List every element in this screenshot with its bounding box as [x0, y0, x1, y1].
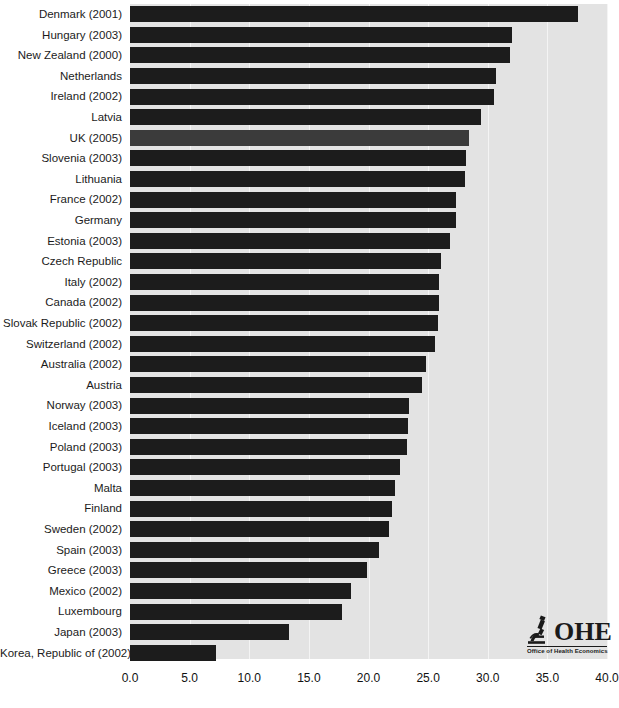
- bar-row: [130, 25, 607, 46]
- x-tick-label: 5.0: [181, 671, 198, 685]
- bar-row: [130, 169, 607, 190]
- x-axis: 0.05.010.015.020.025.030.035.040.0: [0, 659, 618, 693]
- bar: [130, 130, 469, 146]
- bar: [130, 336, 435, 352]
- bar: [130, 274, 439, 290]
- bar-row: [130, 457, 607, 478]
- bar-row: [130, 107, 607, 128]
- category-label: Italy (2002): [0, 272, 126, 293]
- bar-rows: [130, 4, 607, 659]
- category-label: Denmark (2001): [0, 4, 126, 25]
- category-label: UK (2005): [0, 128, 126, 149]
- bar: [130, 459, 400, 475]
- category-label: Netherlands: [0, 66, 126, 87]
- ohe-tagline: Office of Health Economics: [527, 646, 607, 654]
- bar: [130, 418, 408, 434]
- category-label: Estonia (2003): [0, 231, 126, 252]
- bar-row: [130, 86, 607, 107]
- bar-row: [130, 375, 607, 396]
- bar: [130, 480, 395, 496]
- x-tick-label: 15.0: [297, 671, 320, 685]
- bar: [130, 624, 289, 640]
- category-label: Greece (2003): [0, 560, 126, 581]
- bar-row: [130, 231, 607, 252]
- bar-row: [130, 148, 607, 169]
- category-label: Spain (2003): [0, 540, 126, 561]
- category-label: Finland: [0, 498, 126, 519]
- bar-row: [130, 540, 607, 561]
- category-label: Slovak Republic (2002): [0, 313, 126, 334]
- bar-row: [130, 416, 607, 437]
- bar-row: [130, 66, 607, 87]
- category-label: Austria: [0, 375, 126, 396]
- bar: [130, 89, 494, 105]
- bar: [130, 212, 456, 228]
- microscope-icon: [527, 615, 553, 645]
- bar-row: [130, 210, 607, 231]
- bar: [130, 604, 342, 620]
- bar: [130, 562, 367, 578]
- bar: [130, 109, 481, 125]
- bar-row: [130, 437, 607, 458]
- bar-row: [130, 292, 607, 313]
- bar: [130, 47, 510, 63]
- category-label: Sweden (2002): [0, 519, 126, 540]
- category-label: Norway (2003): [0, 395, 126, 416]
- bar-row: [130, 354, 607, 375]
- category-label: Slovenia (2003): [0, 148, 126, 169]
- category-label: Germany: [0, 210, 126, 231]
- bar: [130, 377, 422, 393]
- bar-row: [130, 498, 607, 519]
- bar: [130, 521, 389, 537]
- category-label: Luxembourg: [0, 601, 126, 622]
- category-label: Mexico (2002): [0, 581, 126, 602]
- category-label: France (2002): [0, 189, 126, 210]
- bar: [130, 542, 379, 558]
- x-tick-label: 40.0: [595, 671, 618, 685]
- bar-row: [130, 581, 607, 602]
- ohe-wordmark: OHE: [554, 619, 612, 645]
- bar: [130, 171, 465, 187]
- category-label: Latvia: [0, 107, 126, 128]
- x-tick-label: 10.0: [238, 671, 261, 685]
- category-label: Japan (2003): [0, 622, 126, 643]
- category-label: Lithuania: [0, 169, 126, 190]
- bar-row: [130, 519, 607, 540]
- x-tick-label: 0.0: [122, 671, 139, 685]
- category-label: Canada (2002): [0, 292, 126, 313]
- category-label: Iceland (2003): [0, 416, 126, 437]
- bar-row: [130, 560, 607, 581]
- category-label: Switzerland (2002): [0, 334, 126, 355]
- bar: [130, 233, 450, 249]
- bar: [130, 150, 466, 166]
- bar-row: [130, 313, 607, 334]
- category-axis-labels: Denmark (2001)Hungary (2003)New Zealand …: [0, 4, 126, 659]
- category-label: Portugal (2003): [0, 457, 126, 478]
- bar: [130, 295, 439, 311]
- bar-row: [130, 189, 607, 210]
- bar-row: [130, 128, 607, 149]
- bar-row: [130, 478, 607, 499]
- bar-row: [130, 395, 607, 416]
- bar: [130, 68, 496, 84]
- bar-row: [130, 251, 607, 272]
- bar: [130, 356, 426, 372]
- bar-row: [130, 4, 607, 25]
- bar: [130, 583, 351, 599]
- ohe-logo: OHE Office of Health Economics: [527, 613, 607, 657]
- x-tick-label: 20.0: [357, 671, 380, 685]
- category-label: Hungary (2003): [0, 25, 126, 46]
- bar-row: [130, 334, 607, 355]
- category-label: New Zealand (2000): [0, 45, 126, 66]
- x-tick-label: 25.0: [416, 671, 439, 685]
- bar: [130, 253, 441, 269]
- category-label: Australia (2002): [0, 354, 126, 375]
- bar: [130, 192, 456, 208]
- x-tick-label: 30.0: [476, 671, 499, 685]
- bar: [130, 6, 578, 22]
- bar: [130, 501, 392, 517]
- bar: [130, 27, 512, 43]
- category-label: Czech Republic: [0, 251, 126, 272]
- bar: [130, 398, 409, 414]
